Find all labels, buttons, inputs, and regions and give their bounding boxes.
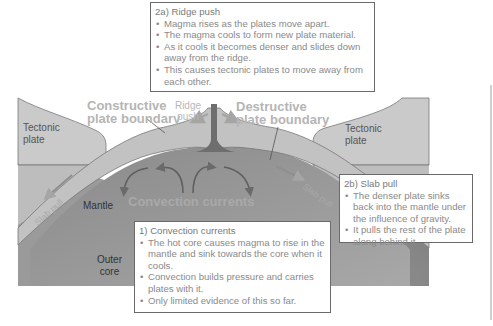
- bullet-item: Convection builds pressure and carries p…: [139, 271, 326, 294]
- tectonic-plate-label-left: Tectonic plate: [23, 122, 60, 145]
- bullet-item: The hot core causes magma to rise in the…: [139, 237, 326, 272]
- bullet-item: This causes tectonic plates to move away…: [155, 64, 370, 87]
- convection-title: 1) Convection currents: [139, 225, 326, 237]
- bullet-item: Only limited evidence of this so far.: [139, 295, 326, 307]
- ridge-push-title: 2a) Ridge push: [155, 6, 370, 18]
- tectonic-plate-label-right: Tectonic plate: [345, 123, 382, 146]
- convection-currents-label: Convection currents: [128, 194, 254, 209]
- mantle-label: Mantle: [83, 200, 113, 212]
- convection-info-box: 1) Convection currents The hot core caus…: [134, 221, 331, 313]
- ridge-push-info-box: 2a) Ridge push Magma rises as the plates…: [150, 2, 375, 92]
- ridge-push-label: Ridge push: [173, 100, 203, 122]
- bullet-item: The magma cools to form new plate materi…: [155, 29, 370, 41]
- plate-tectonics-diagram: Slab pull Slab pull Convection currents …: [0, 0, 493, 326]
- right-margin-rule: [490, 85, 492, 320]
- slab-pull-bullets: The denser plate sinks back into the man…: [344, 190, 468, 248]
- bullet-item: The denser plate sinks back into the man…: [344, 190, 468, 225]
- bullet-item: It pulls the rest of the plate along beh…: [344, 224, 468, 247]
- outer-core-label: Outer core: [97, 254, 122, 277]
- bullet-item: As it cools it becomes denser and slides…: [155, 41, 370, 64]
- bullet-item: Magma rises as the plates move apart.: [155, 18, 370, 30]
- destructive-boundary-label: Destructive plate boundary: [236, 100, 329, 126]
- ridge-push-bullets: Magma rises as the plates move apart. Th…: [155, 18, 370, 88]
- constructive-boundary-label: Constructive plate boundary: [87, 99, 180, 125]
- convection-bullets: The hot core causes magma to rise in the…: [139, 237, 326, 307]
- slab-pull-info-box: 2b) Slab pull The denser plate sinks bac…: [339, 174, 473, 243]
- slab-pull-title: 2b) Slab pull: [344, 178, 468, 190]
